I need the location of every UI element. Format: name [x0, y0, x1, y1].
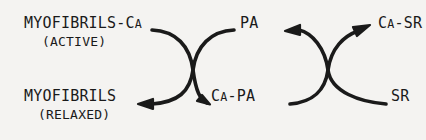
node-myofibrils-ca-sub: (ACTIVE) — [42, 35, 142, 49]
arrow-sr-to-pa — [285, 25, 386, 104]
node-ca-sr-main: CA-SR — [378, 16, 422, 32]
arrowhead-left — [138, 99, 153, 109]
node-myofibrils-ca-prefix: MYOFIBRILS-C — [24, 14, 135, 32]
node-myofibrils-ca-main: MYOFIBRILS-CA — [24, 16, 142, 32]
arrowhead-left-upper — [285, 25, 300, 35]
node-myofibrils: MYOFIBRILS (RELAXED) — [24, 89, 116, 121]
node-ca-pa: CA-PA — [211, 89, 255, 105]
arrowhead-up-right — [353, 25, 370, 36]
node-myofibrils-sub: (RELAXED) — [38, 108, 116, 122]
node-myofibrils-ca-smallcap: A — [135, 17, 142, 31]
node-ca-sr-suffix: -SR — [394, 14, 422, 32]
node-ca-pa-prefix: C — [211, 87, 220, 105]
node-myofibrils-main: MYOFIBRILS — [24, 89, 116, 105]
node-sr-main: SR — [391, 89, 409, 105]
node-pa: PA — [240, 16, 258, 32]
node-sr: SR — [391, 89, 409, 105]
node-ca-pa-main: CA-PA — [211, 89, 255, 105]
node-ca-pa-suffix: -PA — [227, 87, 255, 105]
node-ca-sr-prefix: C — [378, 14, 387, 32]
node-myofibrils-ca: MYOFIBRILS-CA (ACTIVE) — [24, 16, 142, 48]
node-pa-main: PA — [240, 16, 258, 32]
node-ca-sr: CA-SR — [378, 16, 422, 32]
arrow-ca-pa-to-ca-sr — [290, 25, 370, 104]
reaction-cycle-diagram: MYOFIBRILS-CA (ACTIVE) MYOFIBRILS (RELAX… — [0, 0, 426, 140]
